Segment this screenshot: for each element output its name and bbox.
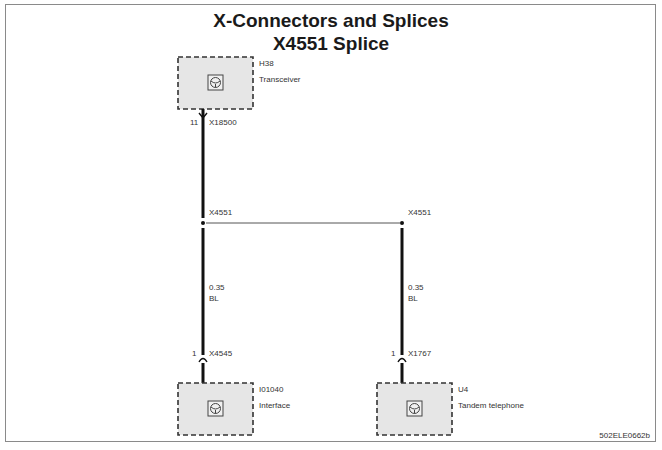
connector-pin: 11 xyxy=(190,118,199,127)
splice-point[interactable] xyxy=(400,221,404,225)
connector-name: X1767 xyxy=(408,349,432,358)
component-id: I01040 xyxy=(259,385,284,394)
connector-pin: 1 xyxy=(391,349,396,358)
connector-x1767[interactable]: 1 X1767 xyxy=(391,349,432,362)
connector-x4545[interactable]: 1 X4545 xyxy=(192,349,233,362)
component-i01040[interactable]: I01040 Interface xyxy=(178,383,291,435)
component-name: Transceiver xyxy=(259,75,301,84)
component-h38[interactable]: H38 Transceiver xyxy=(178,57,301,109)
splice-point[interactable] xyxy=(201,221,205,225)
wire-color: BL xyxy=(209,294,219,303)
wire-gauge: 0.35 xyxy=(209,283,225,292)
component-id: U4 xyxy=(458,385,469,394)
component-id: H38 xyxy=(259,59,274,68)
wire-gauge: 0.35 xyxy=(408,283,424,292)
component-symbol-icon xyxy=(407,401,422,416)
connector-symbol-icon xyxy=(398,359,406,363)
wire-color: BL xyxy=(408,294,418,303)
component-name: Tandem telephone xyxy=(458,401,524,410)
connector-pin: 1 xyxy=(192,349,197,358)
wiring-diagram: H38 Transceiver 11 X18500 X4551 X4551 0.… xyxy=(0,0,662,450)
component-name: Interface xyxy=(259,401,291,410)
connector-name: X4545 xyxy=(209,349,233,358)
connector-name: X18500 xyxy=(209,118,237,127)
drawing-reference: 502ELE0662b xyxy=(599,431,650,440)
splice-label: X4551 xyxy=(209,208,233,217)
splice-label: X4551 xyxy=(408,208,432,217)
component-symbol-icon xyxy=(208,401,223,416)
component-u4[interactable]: U4 Tandem telephone xyxy=(377,383,524,435)
connector-symbol-icon xyxy=(199,359,207,363)
component-symbol-icon xyxy=(208,75,223,90)
connector-x18500[interactable]: 11 X18500 xyxy=(190,113,237,127)
